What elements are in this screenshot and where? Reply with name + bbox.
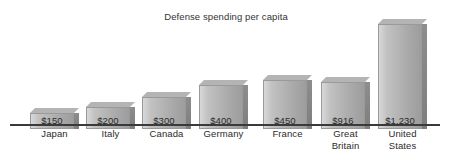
bar-front-face: $400 xyxy=(199,85,243,129)
category-label-7: UnitedStates xyxy=(370,128,435,151)
bar-1: $150 xyxy=(30,108,79,129)
bar-front-face: $1,230 xyxy=(378,24,422,129)
bar-value-label: $200 xyxy=(87,115,129,126)
bar-value-label: $400 xyxy=(200,115,242,126)
category-label-6: GreatBritain xyxy=(313,128,378,151)
category-label-4: Germany xyxy=(191,128,256,140)
bar-side-face xyxy=(74,113,79,129)
category-label-line2: Britain xyxy=(313,140,378,152)
bar-7: $1,230 xyxy=(378,19,427,129)
bar-value-label: $300 xyxy=(143,115,185,126)
bar-front-face: $200 xyxy=(86,107,130,129)
category-label-line1: Germany xyxy=(191,128,256,140)
bar-side-face xyxy=(243,85,248,129)
category-label-line2: States xyxy=(370,140,435,152)
bar-side-face xyxy=(365,82,370,129)
bar-3: $300 xyxy=(142,92,191,129)
category-label-line1: Great xyxy=(313,128,378,140)
bar-5: $450 xyxy=(263,75,312,129)
bar-side-face xyxy=(307,80,312,129)
bar-2: $200 xyxy=(86,102,135,129)
bar-front-face: $916 xyxy=(321,82,365,129)
bar-6: $916 xyxy=(321,77,370,129)
plot-area: $150$200$300$400$450$916$1,230 JapanItal… xyxy=(0,0,452,160)
bar-value-label: $1,230 xyxy=(379,115,421,126)
bar-value-label: $916 xyxy=(322,115,364,126)
category-label-line1: United xyxy=(370,128,435,140)
bar-chart: Defense spending per capita $150$200$300… xyxy=(0,0,452,160)
category-label-3: Canada xyxy=(134,128,199,140)
category-label-line1: Canada xyxy=(134,128,199,140)
category-label-line1: France xyxy=(255,128,320,140)
bar-side-face xyxy=(422,24,427,129)
bar-4: $400 xyxy=(199,80,248,129)
category-label-5: France xyxy=(255,128,320,140)
bar-side-face xyxy=(130,107,135,129)
bar-front-face: $300 xyxy=(142,97,186,129)
bar-front-face: $150 xyxy=(30,113,74,129)
bar-front-face: $450 xyxy=(263,80,307,129)
bar-value-label: $450 xyxy=(264,115,306,126)
bar-value-label: $150 xyxy=(31,115,73,126)
